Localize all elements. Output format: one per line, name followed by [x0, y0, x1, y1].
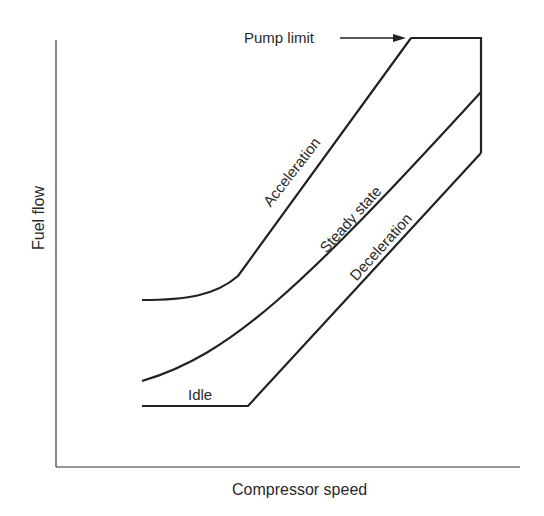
arrowhead-icon — [393, 34, 406, 42]
diagram-canvas — [0, 0, 544, 516]
idle-label: Idle — [188, 387, 212, 402]
fuel-schedule-diagram: Pump limit Idle Compressor speed Fuel fl… — [0, 0, 544, 516]
pump-limit-label: Pump limit — [244, 30, 314, 45]
pump-limit-line — [411, 38, 481, 153]
y-axis-label: Fuel flow — [31, 186, 47, 250]
x-axis-label: Compressor speed — [232, 482, 367, 498]
deceleration-curve — [142, 153, 481, 406]
